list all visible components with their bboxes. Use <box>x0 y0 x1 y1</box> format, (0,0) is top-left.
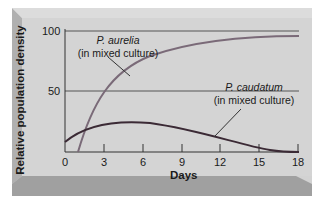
x-tick-3: 3 <box>101 156 107 168</box>
annotation-aurelia: P. aurelia (in mixed culture) <box>68 34 168 60</box>
annotation-caudatum-species: P. caudatum <box>225 81 283 93</box>
annotation-aurelia-note: (in mixed culture) <box>78 47 159 59</box>
y-tick-100: 100 <box>42 25 60 37</box>
x-tick-0: 0 <box>62 156 68 168</box>
x-tick-9: 9 <box>179 156 185 168</box>
panel-bevel-bottom <box>12 176 312 196</box>
annotation-caudatum-note: (in mixed culture) <box>214 94 295 106</box>
x-tick-15: 15 <box>253 156 265 168</box>
x-tick-18: 18 <box>292 156 304 168</box>
x-axis-label: Days <box>170 169 198 181</box>
y-axis-label: Relative population density <box>14 25 26 175</box>
annotation-aurelia-species: P. aurelia <box>96 34 139 46</box>
y-tick-50: 50 <box>48 85 60 97</box>
panel-bevel-top <box>12 8 312 18</box>
x-tick-12: 12 <box>214 156 226 168</box>
x-tick-6: 6 <box>140 156 146 168</box>
annotation-caudatum: P. caudatum (in mixed culture) <box>204 81 304 107</box>
